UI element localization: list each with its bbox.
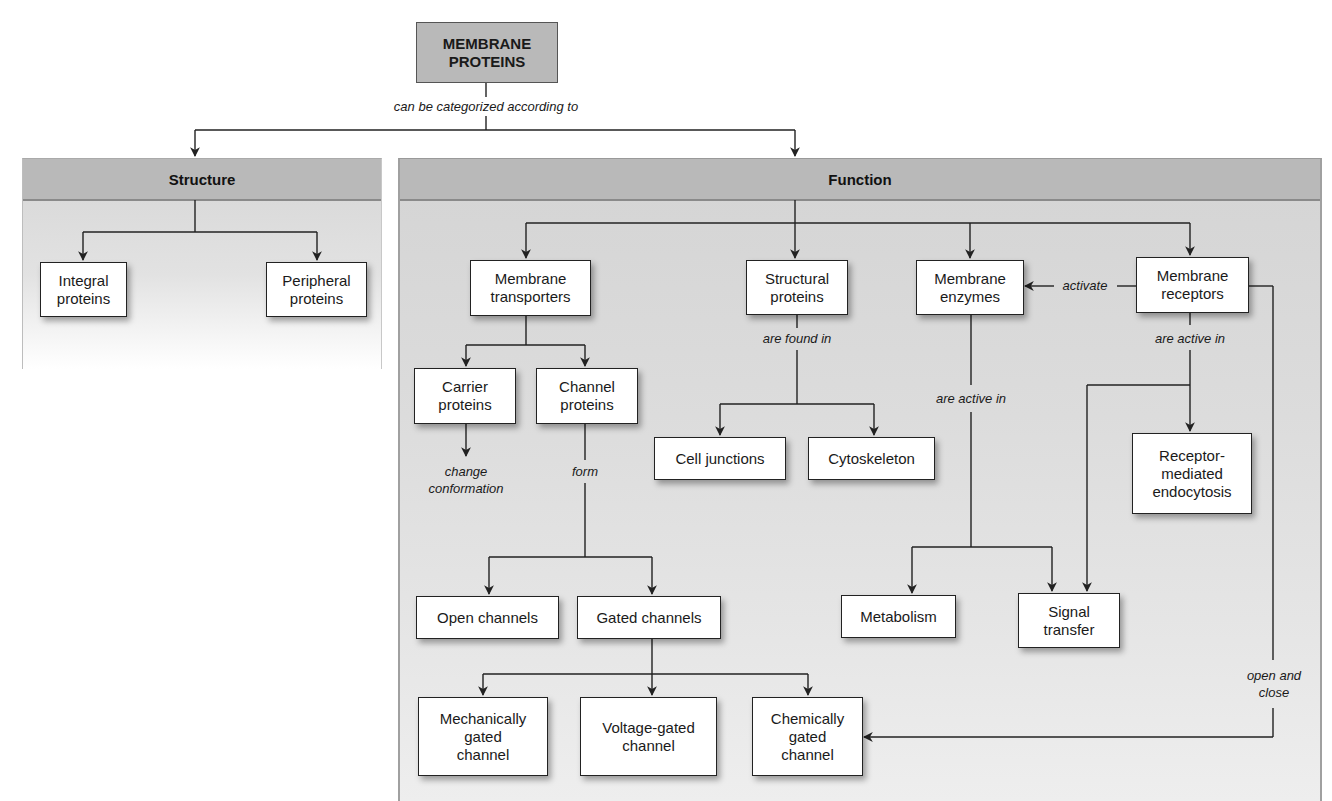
node-membrane-enzymes: Membrane enzymes [916,260,1024,315]
node-channel-proteins: Channel proteins [536,368,638,424]
node-receptor-mediated-endocytosis: Receptor- mediated endocytosis [1132,433,1252,514]
structure-header: Structure [23,159,381,201]
node-metabolism: Metabolism [841,595,956,638]
node-signal-transfer: Signal transfer [1018,593,1120,648]
node-voltage-gated-channel: Voltage-gated channel [580,697,717,776]
node-chemically-gated-channel: Chemically gated channel [752,697,863,776]
open-close-relation-label: open and close [1238,667,1310,701]
activate-relation-label: activate [1055,277,1115,294]
channel-relation-label: form [565,463,605,480]
node-mechanically-gated-channel: Mechanically gated channel [418,697,548,776]
structural-relation-label: are found in [740,330,854,347]
node-carrier-proteins: Carrier proteins [414,368,516,424]
node-open-channels: Open channels [416,596,559,639]
root-node-membrane-proteins: MEMBRANE PROTEINS [416,22,558,83]
node-integral-proteins: Integral proteins [40,262,127,317]
node-cell-junctions: Cell junctions [654,437,786,480]
node-membrane-transporters: Membrane transporters [470,260,591,316]
node-cytoskeleton: Cytoskeleton [808,437,935,480]
node-gated-channels: Gated channels [577,596,721,639]
enzymes-relation-label: are active in [918,390,1024,407]
node-structural-proteins: Structural proteins [746,260,848,315]
function-header: Function [400,159,1320,201]
carrier-action-label: change conformation [414,463,518,497]
node-peripheral-proteins: Peripheral proteins [266,262,367,317]
node-membrane-receptors: Membrane receptors [1136,257,1249,313]
root-relation-label: can be categorized according to [380,98,592,115]
receptors-relation-label: are active in [1137,330,1243,347]
